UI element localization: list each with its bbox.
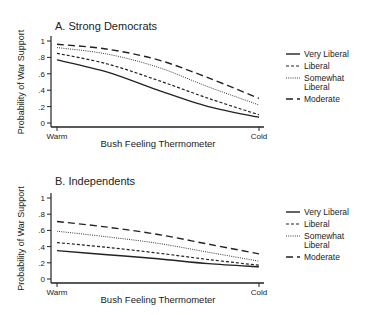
y-tick-label: 1 <box>41 194 46 203</box>
legend-item: Moderate <box>286 94 340 104</box>
x-tick-label-cold: Cold <box>251 288 267 297</box>
y-tick-label: .4 <box>38 243 45 252</box>
y-axis-label: Probability of War Support <box>16 29 26 134</box>
x-tick-label-warm: Warm <box>46 132 67 141</box>
legend-item: Moderate <box>286 252 340 262</box>
y-tick-label: .2 <box>38 259 45 268</box>
y-tick-label: .8 <box>38 210 45 219</box>
legend-item: SomewhatLiberal <box>286 73 345 92</box>
legend-label: Liberal <box>304 61 330 71</box>
chart-title: A. Strong Democrats <box>55 20 158 32</box>
y-tick-label: .4 <box>38 86 45 95</box>
x-tick-label-cold: Cold <box>251 132 267 141</box>
series-line-liberal <box>57 53 259 115</box>
series-line-liberal <box>57 243 259 266</box>
series-line-moderate <box>57 221 259 253</box>
legend-label: Moderate <box>304 94 340 104</box>
y-tick-label: 0 <box>41 275 46 284</box>
legend-label: Liberal <box>304 219 330 229</box>
y-tick-label: .6 <box>38 226 45 235</box>
legend-item: Very Liberal <box>286 49 349 59</box>
legend-label: Liberal <box>304 240 330 250</box>
y-tick-label: .6 <box>38 70 45 79</box>
series-line-very-liberal <box>57 60 259 117</box>
legend: Very LiberalLiberalSomewhatLiberalModera… <box>286 49 349 104</box>
y-tick-label: .8 <box>38 53 45 62</box>
panel-a-strong-democrats: A. Strong Democrats0.2.4.6.81WarmColdBus… <box>0 0 378 160</box>
y-tick-label: .2 <box>38 103 45 112</box>
legend-label: Very Liberal <box>304 49 349 59</box>
chart-b: B. Independents0.2.4.6.81WarmColdBush Fe… <box>0 158 378 315</box>
legend-label: Liberal <box>304 82 330 92</box>
legend: Very LiberalLiberalSomewhatLiberalModera… <box>286 207 349 262</box>
chart-a: A. Strong Democrats0.2.4.6.81WarmColdBus… <box>0 0 378 160</box>
y-axis-label: Probability of War Support <box>16 186 26 291</box>
legend-item: SomewhatLiberal <box>286 231 345 250</box>
x-axis-label: Bush Feeling Thermometer <box>101 138 216 149</box>
chart-title: B. Independents <box>55 175 136 187</box>
series-line-somewhat-liberal <box>57 48 259 105</box>
y-tick-label: 1 <box>41 37 46 46</box>
legend-item: Liberal <box>286 219 330 229</box>
panel-b-independents: B. Independents0.2.4.6.81WarmColdBush Fe… <box>0 158 378 315</box>
legend-item: Very Liberal <box>286 207 349 217</box>
series-line-somewhat-liberal <box>57 231 259 261</box>
legend-label: Moderate <box>304 252 340 262</box>
x-tick-label-warm: Warm <box>46 288 67 297</box>
y-tick-label: 0 <box>41 119 46 128</box>
x-axis-label: Bush Feeling Thermometer <box>101 294 216 305</box>
legend-label: Very Liberal <box>304 207 349 217</box>
legend-item: Liberal <box>286 61 330 71</box>
